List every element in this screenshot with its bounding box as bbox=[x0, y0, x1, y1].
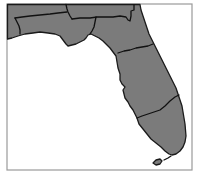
florida-map bbox=[0, 0, 197, 175]
map-canvas bbox=[0, 0, 197, 175]
